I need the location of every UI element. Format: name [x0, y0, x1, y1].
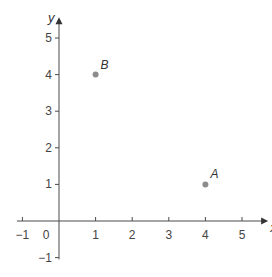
y-tick-label: 1: [45, 177, 52, 191]
plot-canvas: xy −1012345−112345 AB: [0, 0, 272, 277]
x-axis-arrow-icon: [261, 218, 268, 225]
point-label-b: B: [101, 58, 109, 72]
x-tick-label: 1: [92, 228, 99, 242]
x-tick-label: 5: [239, 228, 246, 242]
point-b: [93, 72, 99, 78]
axes: xy: [17, 10, 272, 259]
point-a: [202, 181, 208, 187]
y-axis-arrow-icon: [56, 17, 63, 24]
x-tick-label: 3: [165, 228, 172, 242]
y-tick-label: 3: [45, 104, 52, 118]
x-tick-label: −1: [16, 228, 30, 242]
origin-label: 0: [43, 228, 50, 242]
point-label-a: A: [209, 167, 218, 181]
y-tick-label: 4: [45, 68, 52, 82]
x-tick-label: 2: [129, 228, 136, 242]
x-axis-label: x: [269, 220, 272, 235]
y-axis-label: y: [47, 10, 56, 25]
y-tick-label: 2: [45, 141, 52, 155]
coordinate-plot: xy −1012345−112345 AB: [0, 0, 272, 277]
data-points: AB: [93, 58, 219, 188]
y-tick-label: 5: [45, 31, 52, 45]
ticks: −1012345−112345: [16, 31, 246, 265]
y-tick-label: −1: [38, 251, 52, 265]
x-tick-label: 4: [202, 228, 209, 242]
